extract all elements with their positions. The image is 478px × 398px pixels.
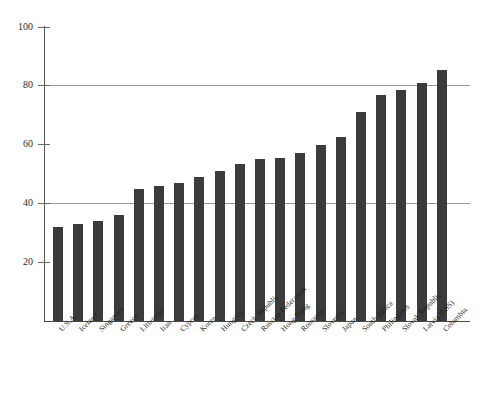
bar (114, 215, 124, 321)
bar (73, 224, 83, 321)
bar (174, 183, 184, 321)
bar (376, 95, 386, 321)
bar (134, 189, 144, 321)
bars-container (0, 0, 478, 398)
bar (215, 171, 225, 321)
bar-chart: 100 80 60 40 20 U.S.A.IcelandSingaporeGr… (0, 0, 478, 398)
bar (93, 221, 103, 321)
bar (316, 145, 326, 321)
bar (417, 83, 427, 321)
bar (275, 158, 285, 321)
bar (53, 227, 63, 321)
bar (336, 137, 346, 321)
bar (255, 159, 265, 321)
bar (437, 70, 447, 321)
bar (295, 153, 305, 321)
bar (235, 164, 245, 321)
bar (154, 186, 164, 321)
bar (356, 112, 366, 321)
bar (194, 177, 204, 321)
bar (396, 90, 406, 321)
